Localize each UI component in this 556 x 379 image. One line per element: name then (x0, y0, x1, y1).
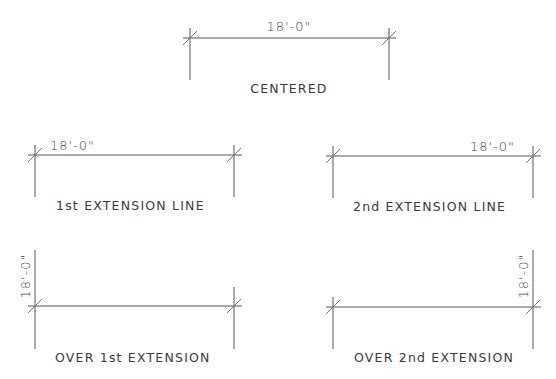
example-label: 1st EXTENSION LINE (56, 198, 205, 213)
dimension-diagram: 18'-0" CENTERED 18'-0" 1st EXTENSION LIN… (0, 0, 556, 379)
example-label: OVER 1st EXTENSION (55, 350, 211, 365)
dimension-text: 18'-0" (470, 139, 515, 154)
example-second-extension: 18'-0" 2nd EXTENSION LINE (326, 139, 541, 214)
example-centered: 18'-0" CENTERED (183, 19, 396, 96)
example-over-second-extension: 18'-0" OVER 2nd EXTENSION (326, 250, 541, 365)
dimension-text: 18'-0" (266, 19, 311, 34)
dimension-text: 18'-0" (50, 138, 95, 153)
example-first-extension: 18'-0" 1st EXTENSION LINE (28, 138, 242, 213)
dimension-text-vertical: 18'-0" (18, 253, 33, 298)
example-label: CENTERED (250, 81, 327, 96)
example-label: OVER 2nd EXTENSION (354, 350, 514, 365)
dimension-text-vertical: 18'-0" (516, 253, 531, 298)
example-over-first-extension: 18'-0" OVER 1st EXTENSION (18, 250, 242, 365)
example-label: 2nd EXTENSION LINE (353, 199, 506, 214)
